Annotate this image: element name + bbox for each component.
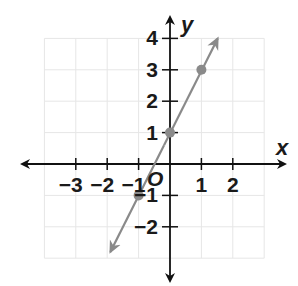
y-tick-label: 2 [146, 89, 158, 112]
origin-label: O [147, 167, 163, 190]
x-tick-label: 1 [196, 173, 208, 196]
x-tick-label: −2 [90, 173, 114, 196]
y-tick-label: 3 [146, 58, 158, 81]
y-tick-label: 4 [146, 26, 158, 49]
data-point [196, 65, 206, 75]
data-point [165, 128, 175, 138]
x-tick-label: 2 [227, 173, 239, 196]
y-tick-label: −2 [134, 215, 158, 238]
y-axis-label: y [180, 12, 195, 37]
x-tick-label: −3 [59, 173, 83, 196]
coordinate-plane: −3−2−1124321−1−2xyO [0, 0, 298, 286]
y-tick-label: 1 [146, 121, 158, 144]
axes [22, 17, 285, 281]
x-axis-label: x [275, 135, 289, 160]
